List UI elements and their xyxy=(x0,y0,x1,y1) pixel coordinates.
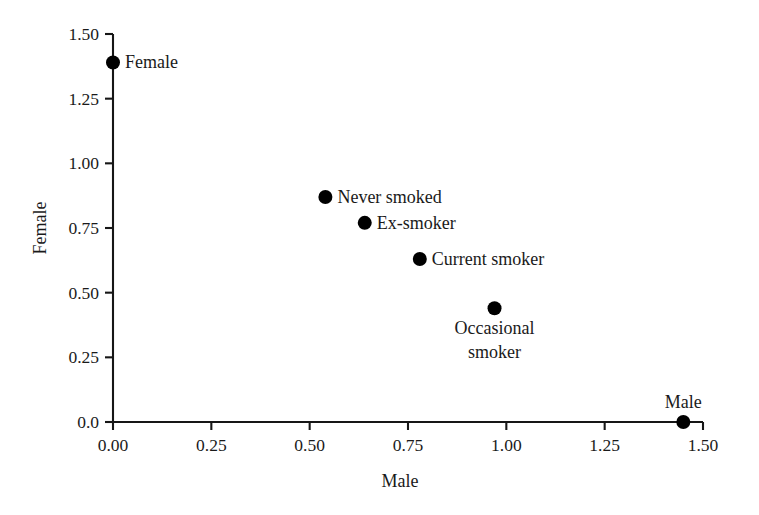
scatter-chart-figure: 0.000.250.500.751.001.251.500.00.250.500… xyxy=(0,0,759,515)
scatter-plot-canvas: 0.000.250.500.751.001.251.500.00.250.500… xyxy=(0,0,759,515)
x-tick-label: 1.00 xyxy=(491,435,522,455)
data-point-current-smoker[interactable] xyxy=(413,252,427,266)
y-axis-title: Female xyxy=(30,202,50,255)
x-axis-title: Male xyxy=(382,471,419,491)
y-tick-label: 1.50 xyxy=(68,24,99,44)
y-tick-label: 1.00 xyxy=(68,153,99,173)
y-tick-label: 1.25 xyxy=(68,89,99,109)
data-point-occasional-smoker[interactable] xyxy=(488,301,502,315)
data-point-label-occasional-smoker: Occasionalsmoker xyxy=(455,318,535,362)
y-tick-label: 0.50 xyxy=(68,283,99,303)
data-point-label-current-smoker: Current smoker xyxy=(432,249,544,269)
tick-labels-group: 0.000.250.500.751.001.251.500.00.250.500… xyxy=(68,24,718,455)
data-point-label-never-smoked: Never smoked xyxy=(337,187,441,207)
data-point-female[interactable] xyxy=(106,55,120,69)
y-tick-label: 0.0 xyxy=(77,412,99,432)
data-point-label-male: Male xyxy=(665,392,702,412)
y-tick-label: 0.75 xyxy=(68,218,99,238)
data-point-labels-group: FemaleNever smokedEx-smokerCurrent smoke… xyxy=(125,52,702,412)
x-tick-label: 0.50 xyxy=(294,435,325,455)
x-tick-label: 1.50 xyxy=(688,435,719,455)
data-point-label-ex-smoker: Ex-smoker xyxy=(377,213,456,233)
data-point-ex-smoker[interactable] xyxy=(358,216,372,230)
data-points-group xyxy=(106,55,690,429)
data-point-label-female: Female xyxy=(125,52,178,72)
x-tick-label: 0.75 xyxy=(393,435,424,455)
x-tick-label: 0.25 xyxy=(196,435,227,455)
x-tick-label: 0.00 xyxy=(98,435,129,455)
x-tick-label: 1.25 xyxy=(589,435,620,455)
data-point-never-smoked[interactable] xyxy=(318,190,332,204)
y-tick-label: 0.25 xyxy=(68,347,99,367)
data-point-male[interactable] xyxy=(676,415,690,429)
